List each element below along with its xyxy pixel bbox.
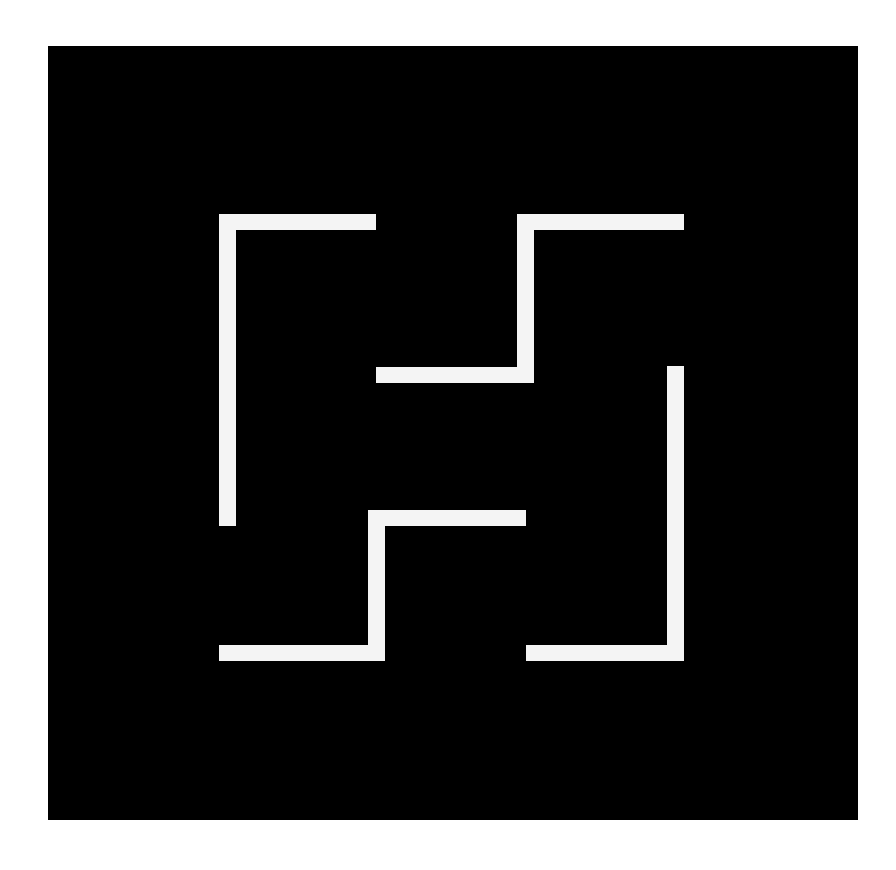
upper-step-bar-2 — [517, 214, 684, 230]
bottom-right-corner-bar-1 — [526, 645, 684, 661]
artwork-canvas — [0, 0, 896, 870]
upper-step-bar-0 — [376, 367, 534, 383]
upper-step-bar-1 — [517, 214, 534, 383]
lower-step-bar-0 — [368, 510, 526, 526]
black-square-panel — [48, 46, 858, 820]
lower-step-bar-2 — [219, 645, 385, 661]
top-left-corner-bar-1 — [219, 214, 376, 230]
lower-step-bar-1 — [368, 510, 385, 661]
top-left-corner-bar-0 — [219, 214, 236, 526]
bottom-right-corner-bar-0 — [667, 366, 684, 661]
